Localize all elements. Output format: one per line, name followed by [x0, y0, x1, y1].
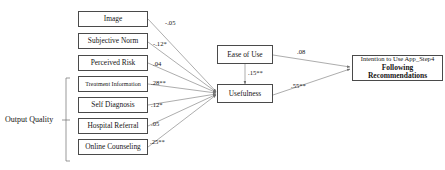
path-ease-of-use-to-intention [273, 55, 350, 67]
node-usefulness-label: Usefulness [229, 90, 261, 98]
group-brace [66, 78, 70, 161]
node-usefulness[interactable]: Usefulness [217, 84, 273, 103]
node-image-label: Image [104, 15, 122, 23]
coefficient-ease-of-use-to-intention: .08 [297, 48, 305, 55]
coefficient-ease-of-use-to-usefulness: .15** [248, 69, 263, 76]
node-self-diagnosis[interactable]: Self Diagnosis [78, 97, 148, 113]
node-intention-line1: Intention to Use App_Step4 [361, 56, 434, 63]
node-intention-to-use[interactable]: Intention to Use App_Step4 Following Rec… [352, 55, 443, 81]
node-perceived-risk-label: Perceived Risk [91, 59, 136, 67]
node-subjective-norm[interactable]: Subjective Norm [78, 33, 148, 49]
node-image[interactable]: Image [78, 11, 148, 27]
node-self-diagnosis-label: Self Diagnosis [91, 101, 134, 109]
node-subjective-norm-label: Subjective Norm [88, 37, 138, 45]
path-usefulness-to-intention [273, 69, 350, 95]
coefficient-treatment-information-to-usefulness: .28** [151, 79, 166, 86]
node-ease-of-use[interactable]: Ease of Use [217, 45, 273, 64]
coefficient-perceived-risk-to-usefulness: .04 [153, 60, 161, 67]
group-label-output-quality: Output Quality [5, 115, 53, 124]
coefficient-usefulness-to-intention: .55** [291, 82, 306, 89]
node-hospital-referral-label: Hospital Referral [87, 122, 138, 130]
node-online-counseling-label: Online Counseling [85, 143, 141, 151]
coefficient-self-diagnosis-to-usefulness: .12* [151, 101, 163, 108]
node-ease-of-use-label: Ease of Use [227, 51, 262, 59]
path-diagram: Image Subjective Norm Perceived Risk Tre… [0, 0, 445, 170]
node-treatment-information-label: Treatment Information [85, 81, 140, 87]
coefficient-subjective-norm-to-usefulness: -.12* [153, 40, 167, 47]
coefficient-online-counseling-to-usefulness: .25** [150, 138, 165, 145]
coefficient-image-to-usefulness: -.05 [165, 19, 175, 26]
node-hospital-referral[interactable]: Hospital Referral [78, 118, 148, 134]
coefficient-hospital-referral-to-usefulness: .05 [151, 120, 159, 127]
node-online-counseling[interactable]: Online Counseling [78, 139, 148, 155]
node-treatment-information[interactable]: Treatment Information [78, 76, 148, 92]
node-intention-line2: Following Recommendations [356, 64, 439, 80]
node-perceived-risk[interactable]: Perceived Risk [78, 55, 148, 71]
